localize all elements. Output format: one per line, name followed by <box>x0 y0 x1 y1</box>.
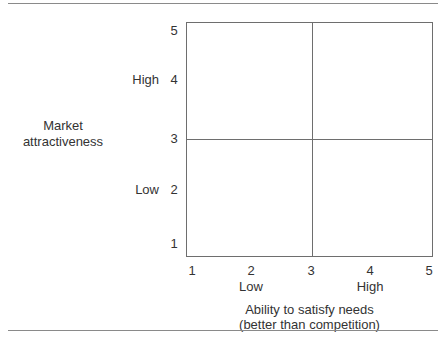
x-tick-2: 2 <box>243 264 259 277</box>
x-tick-1: 1 <box>184 264 200 277</box>
y-axis-title-line1: Market <box>8 118 118 134</box>
x-label-low: Low <box>226 280 276 293</box>
y-axis-title: Market attractiveness <box>8 118 118 150</box>
x-axis-title-line1: Ability to satisfy needs <box>186 302 433 317</box>
x-tick-4: 4 <box>362 264 378 277</box>
y-label-high: High <box>111 73 159 86</box>
y-tick-4: 4 <box>167 73 181 86</box>
top-divider-rule <box>8 3 438 4</box>
market-attractiveness-matrix-figure: 5 4 3 2 1 High Low Market attractiveness… <box>0 0 446 342</box>
x-tick-5: 5 <box>421 264 437 277</box>
y-tick-5: 5 <box>167 24 181 37</box>
horizontal-quadrant-divider <box>186 139 433 140</box>
y-label-low: Low <box>111 183 159 196</box>
y-tick-2: 2 <box>167 183 181 196</box>
y-axis-title-line2: attractiveness <box>8 134 118 150</box>
x-axis-title: Ability to satisfy needs (better than co… <box>186 302 433 332</box>
bottom-divider-rule <box>8 330 438 331</box>
y-tick-3: 3 <box>167 132 181 145</box>
x-label-high: High <box>345 280 395 293</box>
y-tick-1: 1 <box>167 237 181 250</box>
x-tick-3: 3 <box>303 264 319 277</box>
